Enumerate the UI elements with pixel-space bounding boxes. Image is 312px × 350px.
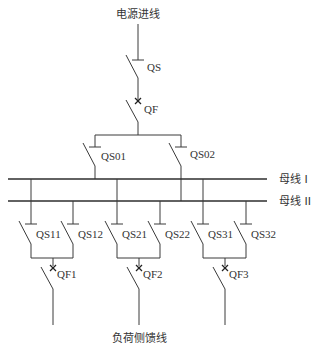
bus-disconnector-qs02: QS02 [169,135,215,201]
qs12-label: QS12 [78,228,103,240]
incoming-breaker-qf: QF [126,98,158,135]
bus2-label: 母线 II [279,194,311,208]
qs32-label: QS32 [251,228,276,240]
bus1-label: 母线 I [279,172,308,186]
incoming-disconnector-qs: QS [126,24,161,100]
qs11-label: QS11 [36,228,61,240]
qs01-label: QS01 [101,150,126,162]
qs22-label: QS22 [165,228,190,240]
qs21-label: QS21 [122,228,147,240]
qf2-label: QF2 [143,268,163,280]
incoming-label: 电源进线 [116,7,160,21]
qs-label: QS [147,61,161,73]
single-line-diagram: 电源进线 QS QF QS01 QS02 母线 I 母线 II [0,0,312,350]
qs02-label: QS02 [190,148,215,160]
outgoing-label: 负荷侧馈线 [112,331,167,345]
qf1-label: QF1 [57,268,77,280]
qf-label: QF [144,103,158,115]
bus-disconnector-qs01: QS01 [83,135,126,179]
qf3-label: QF3 [229,268,249,280]
qs31-label: QS31 [208,228,233,240]
